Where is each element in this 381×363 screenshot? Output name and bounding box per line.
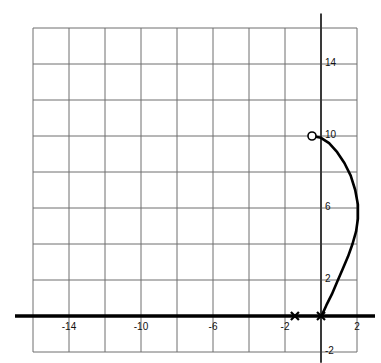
- x-axis-tick-label: -10: [134, 322, 148, 332]
- y-axis-tick-label: 2: [325, 274, 331, 284]
- x-axis-tick-label: -14: [62, 322, 76, 332]
- y-axis-tick-label: 14: [325, 58, 336, 68]
- x-axis-tick-label: -2: [281, 322, 290, 332]
- y-axis-tick-label: 10: [325, 130, 336, 140]
- y-axis-tick-label: -2: [325, 346, 334, 356]
- curve-path: [312, 136, 358, 315]
- grid-lines: [33, 28, 357, 352]
- x-axis-tick-label: -6: [209, 322, 218, 332]
- marker-open-circle: [308, 132, 316, 140]
- y-axis-tick-label: 6: [325, 202, 331, 212]
- coordinate-plot: [0, 0, 381, 363]
- x-axis-tick-label: 2: [354, 322, 360, 332]
- graph-figure: -14-10-6-22141062-2: [0, 0, 381, 363]
